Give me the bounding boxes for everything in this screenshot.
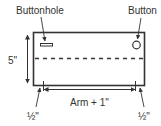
buttonhole-leader [41,17,45,41]
buttonhole-marker [41,44,53,47]
seam-leader-right [140,88,144,107]
height-label: 5" [8,55,18,66]
seam-allowance-left-label: ½" [27,111,39,122]
button-leader [138,18,142,39]
button-label: Button [128,5,157,16]
seam-leader-left [36,88,40,107]
cuff-pattern-diagram: Buttonhole Button 5" Arm + 1" ½" ½" [0,0,161,126]
cuff-outline [34,33,145,86]
buttonhole-label: Buttonhole [16,5,64,16]
button-marker [133,41,141,49]
seam-allowance-right-label: ½" [138,111,150,122]
width-label: Arm + 1" [70,97,109,108]
